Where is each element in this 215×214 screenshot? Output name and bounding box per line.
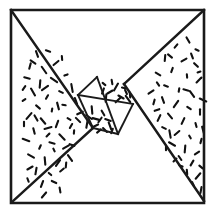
stipple-mark-left-triangle-35 bbox=[35, 168, 36, 175]
stipple-mark-left-triangle-2 bbox=[29, 63, 30, 69]
stipple-mark-left-triangle-5 bbox=[24, 77, 29, 78]
stipple-mark-left-triangle-1 bbox=[46, 50, 50, 52]
stipple-mark-left-triangle-32 bbox=[45, 157, 46, 164]
stipple-mark-left-triangle-28 bbox=[39, 145, 41, 148]
figure-root: Square frame containing a rotated square… bbox=[0, 0, 215, 214]
stipple-mark-right-triangle-35 bbox=[200, 187, 201, 193]
stipple-mark-cell-bottom-left-8 bbox=[92, 106, 93, 113]
stipple-mark-right-triangle-37 bbox=[169, 130, 170, 137]
stipple-mark-left-triangle-23 bbox=[33, 128, 34, 133]
stipple-mark-right-triangle-46 bbox=[153, 100, 154, 105]
stipple-mark-left-triangle-6 bbox=[40, 80, 41, 87]
stipple-mark-left-triangle-21 bbox=[68, 118, 71, 120]
stipple-mark-left-triangle-15 bbox=[52, 108, 53, 111]
stipple-mark-right-triangle-10 bbox=[164, 85, 168, 86]
stipple-mark-left-triangle-12 bbox=[71, 84, 72, 92]
stipple-mark-left-triangle-16 bbox=[62, 105, 65, 106]
stipple-mark-right-triangle-24 bbox=[189, 136, 191, 139]
stipple-mark-right-triangle-47 bbox=[198, 71, 201, 72]
dissection-diagram bbox=[0, 0, 215, 214]
stipple-mark-right-triangle-11 bbox=[179, 88, 180, 92]
stipple-mark-right-triangle-27 bbox=[185, 146, 186, 153]
stipple-mark-left-triangle-8 bbox=[64, 74, 67, 75]
stipple-mark-left-triangle-47 bbox=[49, 142, 54, 143]
stipple-mark-right-triangle-2 bbox=[195, 49, 198, 50]
stipple-mark-cell-top-right-8 bbox=[112, 80, 113, 84]
stipple-mark-right-triangle-44 bbox=[183, 89, 188, 90]
stipple-mark-right-triangle-25 bbox=[200, 139, 201, 143]
stipple-mark-right-triangle-3 bbox=[165, 55, 166, 61]
stipple-mark-left-triangle-53 bbox=[60, 188, 61, 193]
stipple-mark-left-triangle-29 bbox=[53, 149, 54, 152]
stipple-mark-left-triangle-38 bbox=[27, 178, 28, 182]
stipple-mark-right-triangle-6 bbox=[171, 68, 173, 72]
stipple-mark-right-triangle-21 bbox=[195, 123, 196, 127]
